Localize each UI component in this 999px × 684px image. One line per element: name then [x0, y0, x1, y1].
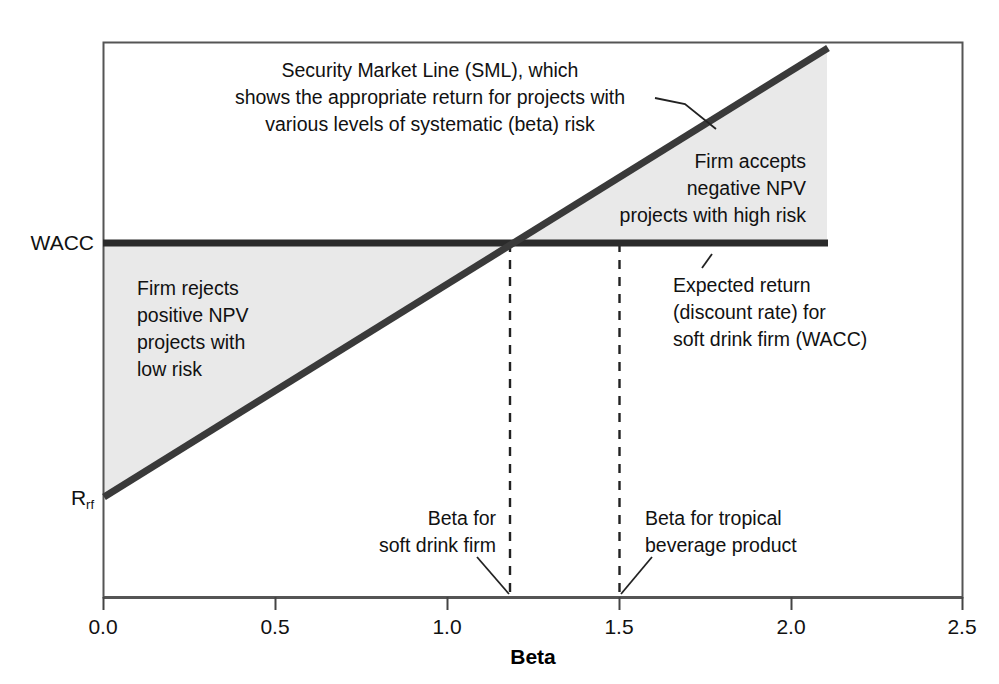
sml-annotation-line-1: Security Market Line (SML), which [235, 57, 625, 84]
beta-tropical-line-1: Beta for tropical [645, 505, 797, 532]
firm-accepts-line-2: negative NPV [620, 175, 806, 202]
firm-rejects-line-4: low risk [137, 356, 249, 383]
risk-free-symbol: R [71, 486, 86, 509]
sml-annotation: Security Market Line (SML), which shows … [235, 57, 625, 138]
beta-tropical-annotation: Beta for tropical beverage product [645, 505, 797, 559]
y-axis-label-risk-free: Rrf [71, 486, 94, 510]
firm-rejects-line-1: Firm rejects [137, 275, 249, 302]
firm-accepts-line-1: Firm accepts [620, 148, 806, 175]
expected-return-annotation: Expected return (discount rate) for soft… [673, 272, 867, 353]
beta-soft-drink-leader-line [477, 557, 509, 594]
expected-return-line-3: soft drink firm (WACC) [673, 326, 867, 353]
firm-rejects-line-3: projects with [137, 329, 249, 356]
beta-soft-drink-annotation: Beta for soft drink firm [379, 505, 496, 559]
beta-soft-drink-line-2: soft drink firm [379, 532, 496, 559]
sml-annotation-line-2: shows the appropriate return for project… [235, 84, 625, 111]
expected-return-leader-line [702, 254, 712, 268]
beta-tropical-leader-line [621, 557, 652, 594]
beta-soft-drink-line-1: Beta for [379, 505, 496, 532]
x-tick-label-5: 2.5 [947, 615, 976, 639]
x-tick-label-2: 1.0 [432, 615, 461, 639]
expected-return-line-1: Expected return [673, 272, 867, 299]
firm-rejects-line-2: positive NPV [137, 302, 249, 329]
expected-return-line-2: (discount rate) for [673, 299, 867, 326]
sml-annotation-line-3: various levels of systematic (beta) risk [235, 111, 625, 138]
firm-accepts-annotation: Firm accepts negative NPV projects with … [620, 148, 806, 229]
y-axis-label-wacc: WACC [31, 231, 94, 255]
x-axis-title: Beta [510, 645, 556, 669]
x-tick-label-3: 1.5 [604, 615, 633, 639]
beta-tropical-line-2: beverage product [645, 532, 797, 559]
x-tick-label-1: 0.5 [260, 615, 289, 639]
firm-accepts-line-3: projects with high risk [620, 202, 806, 229]
firm-rejects-annotation: Firm rejects positive NPV projects with … [137, 275, 249, 383]
risk-free-subscript: rf [86, 497, 94, 512]
sml-chart-figure: WACC Rrf Security Market Line (SML), whi… [0, 0, 999, 684]
x-tick-label-4: 2.0 [776, 615, 805, 639]
x-tick-label-0: 0.0 [88, 615, 117, 639]
